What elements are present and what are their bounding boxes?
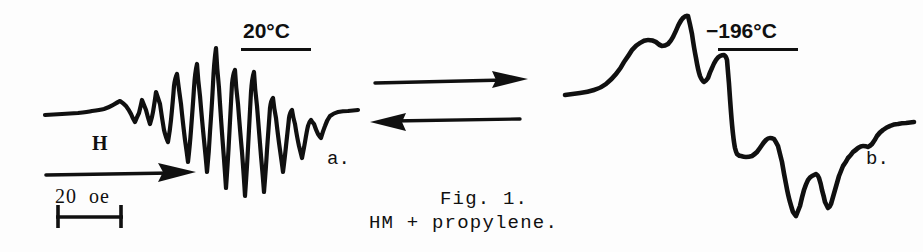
field-scale-bar — [56, 205, 123, 228]
field-direction-arrow — [46, 163, 196, 182]
field-symbol-label: H — [92, 133, 108, 154]
equilibrium-arrow-reverse — [370, 113, 520, 131]
figure-caption-line-2: HM + propylene. — [369, 214, 558, 234]
figure-caption-line-1: Fig. 1. — [440, 190, 528, 210]
field-scale-label: 20 oe — [55, 186, 110, 207]
equilibrium-arrow-forward — [375, 71, 528, 88]
temperature-underline-panel-a — [241, 48, 311, 51]
panel-letter-a: a. — [327, 150, 350, 170]
temperature-label-panel-a: 20°C — [243, 20, 290, 42]
temperature-underline-panel-b — [718, 48, 798, 51]
panel-letter-b: b. — [866, 150, 889, 170]
temperature-label-panel-b: −196°C — [706, 20, 777, 42]
esr-figure: 20°C −196°C H 20 oe a. b. Fig. 1. HM + p… — [0, 0, 923, 252]
spectrum-trace-b — [565, 16, 914, 216]
